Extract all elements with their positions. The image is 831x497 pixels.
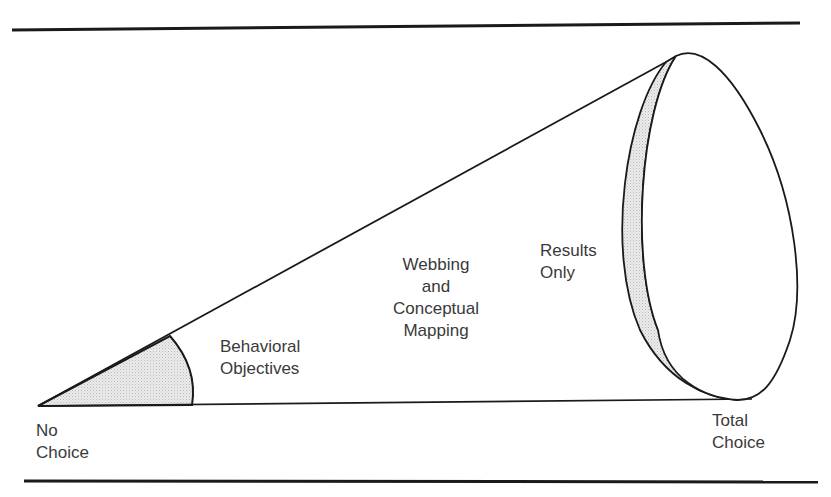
- total-choice-line1: Total: [712, 410, 765, 432]
- cone-upper-edge: [38, 62, 666, 406]
- webbing-line2: and: [384, 276, 488, 298]
- webbing-line1: Webbing: [384, 254, 488, 276]
- webbing-line4: Mapping: [384, 320, 488, 342]
- bottom-rule: [24, 481, 818, 482]
- label-no-choice: No Choice: [36, 420, 89, 464]
- label-behavioral-objectives: Behavioral Objectives: [220, 336, 300, 380]
- behavioral-wedge: [38, 336, 193, 406]
- label-total-choice: Total Choice: [712, 410, 765, 454]
- behavioral-line1: Behavioral: [220, 336, 300, 358]
- label-results-only: Results Only: [540, 240, 597, 284]
- total-choice-line2: Choice: [712, 432, 765, 454]
- no-choice-line2: Choice: [36, 442, 89, 464]
- results-line2: Only: [540, 262, 597, 284]
- cone-diagram: [0, 0, 831, 497]
- webbing-line3: Conceptual: [384, 298, 488, 320]
- results-line1: Results: [540, 240, 597, 262]
- top-rule: [12, 23, 800, 30]
- ellipse-face: [642, 53, 797, 400]
- label-webbing-conceptual-mapping: Webbing and Conceptual Mapping: [384, 254, 488, 342]
- no-choice-line1: No: [36, 420, 89, 442]
- behavioral-line2: Objectives: [220, 358, 300, 380]
